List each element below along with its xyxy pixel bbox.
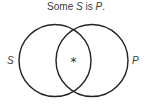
circle-p <box>56 25 128 97</box>
circle-s <box>19 25 91 97</box>
venn-diagram: S P * <box>0 0 147 104</box>
label-s: S <box>7 55 14 66</box>
asterisk-marker: * <box>71 55 77 69</box>
label-p: P <box>132 55 139 66</box>
